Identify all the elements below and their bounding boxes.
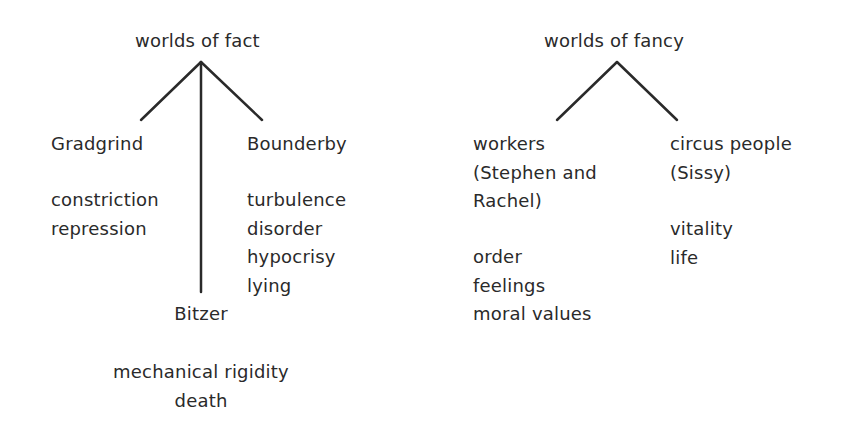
fact-root-label: worlds of fact [135, 27, 260, 55]
gradgrind-traits: constriction repression [51, 186, 159, 243]
trait: constriction [51, 186, 159, 215]
trait: life [670, 244, 733, 273]
circus-name-line: (Sissy) [670, 159, 792, 188]
trait: turbulence [247, 186, 346, 215]
bounderby-traits: turbulence disorder hypocrisy lying [247, 186, 346, 300]
workers-traits: order feelings moral values [473, 243, 592, 329]
trait: lying [247, 272, 346, 301]
trait: moral values [473, 300, 592, 329]
circus-traits: vitality life [670, 215, 733, 272]
trait: feelings [473, 272, 592, 301]
trait: repression [51, 215, 159, 244]
fact-to-gradgrind-line [141, 62, 201, 120]
trait: mechanical rigidity [91, 358, 311, 387]
trait: hypocrisy [247, 243, 346, 272]
trait: vitality [670, 215, 733, 244]
fancy-to-workers-line [557, 62, 617, 120]
fact-to-bounderby-line [201, 62, 262, 120]
workers-name-line: Rachel) [473, 187, 597, 216]
workers-name-line: workers [473, 130, 597, 159]
circus-name-line: circus people [670, 130, 792, 159]
trait: disorder [247, 215, 346, 244]
fancy-to-circus-line [617, 62, 677, 120]
bitzer-traits: mechanical rigidity death [91, 358, 311, 415]
fancy-root-label: worlds of fancy [544, 27, 684, 55]
bitzer-label: Bitzer [151, 300, 251, 328]
trait: death [91, 387, 311, 416]
gradgrind-label: Gradgrind [51, 130, 143, 158]
trait: order [473, 243, 592, 272]
bounderby-label: Bounderby [247, 130, 347, 158]
circus-people-label: circus people (Sissy) [670, 130, 792, 187]
workers-name-line: (Stephen and [473, 159, 597, 188]
workers-label: workers (Stephen and Rachel) [473, 130, 597, 216]
